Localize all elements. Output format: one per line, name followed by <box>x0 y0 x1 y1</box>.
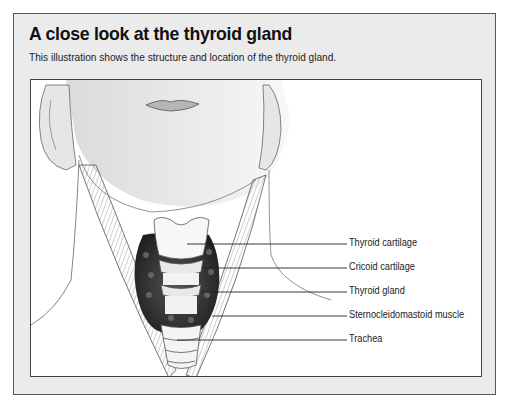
box-subtitle: This illustration shows the structure an… <box>29 51 336 63</box>
thyroid-illustration: Thyroid cartilage Cricoid cartilage Thyr… <box>30 79 482 377</box>
info-box: A close look at the thyroid gland This i… <box>13 13 496 395</box>
label-thyroid-gland: Thyroid gland <box>349 285 405 296</box>
label-sternocleidomastoid-muscle: Sternocleidomastoid muscle <box>349 309 464 320</box>
label-cricoid-cartilage: Cricoid cartilage <box>349 261 415 272</box>
label-trachea: Trachea <box>349 333 382 344</box>
neck-outline-right <box>269 170 331 300</box>
thyroid-cartilage <box>154 218 209 260</box>
label-thyroid-cartilage: Thyroid cartilage <box>349 237 417 248</box>
neck-anatomy-drawing <box>31 80 482 377</box>
neck-outline-left <box>31 160 79 325</box>
box-title: A close look at the thyroid gland <box>29 23 292 45</box>
